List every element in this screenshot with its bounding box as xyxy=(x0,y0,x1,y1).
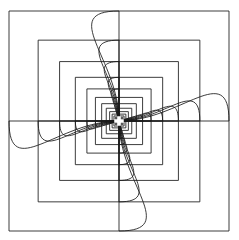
figure-canvas-container xyxy=(0,0,239,240)
spiral-figure-svg xyxy=(0,0,239,240)
